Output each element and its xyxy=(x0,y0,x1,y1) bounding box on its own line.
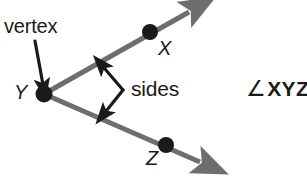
point-dot-z xyxy=(158,137,174,153)
sides-label: sides xyxy=(131,78,179,99)
point-dot-x xyxy=(142,24,158,40)
point-label-z: Z xyxy=(146,148,158,168)
point-label-y: Y xyxy=(14,82,27,102)
vertex-pointer-arrow xyxy=(35,41,43,82)
ray-yz xyxy=(44,94,200,162)
sides-pointer-arrow-lower xyxy=(107,90,123,110)
angle-notation-name: XYZ xyxy=(267,77,307,100)
vertex-label: vertex xyxy=(4,16,57,36)
angle-symbol-icon: ∠ xyxy=(246,76,267,101)
point-dot-y xyxy=(36,86,53,103)
angle-notation: ∠XYZ xyxy=(246,78,307,100)
sides-pointer-arrow-upper xyxy=(105,69,123,90)
angle-diagram-figure: vertex sides Y X Z ∠XYZ xyxy=(0,0,307,176)
point-label-x: X xyxy=(158,38,171,58)
